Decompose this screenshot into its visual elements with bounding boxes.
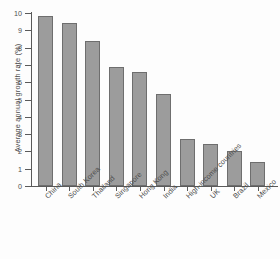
bar [62, 23, 77, 186]
y-tick-label: 7 [0, 61, 22, 70]
bar [85, 41, 100, 186]
y-tick-mark [25, 100, 31, 101]
y-tick-label: 6 [0, 78, 22, 87]
bar-chart: Average annual growth rate (%) 109876543… [0, 0, 280, 259]
bar [38, 16, 53, 186]
y-tick-mark [25, 134, 31, 135]
y-tick-label: 8 [0, 44, 22, 53]
y-axis-line [31, 12, 32, 187]
y-tick-mark [25, 48, 31, 49]
bar [250, 162, 265, 186]
y-tick-mark [25, 151, 31, 152]
y-tick-mark [25, 186, 31, 187]
bar [132, 72, 147, 186]
y-tick-mark [25, 169, 31, 170]
plot-area: 109876543210 ChinaSouth KoreaThailandSin… [0, 0, 280, 259]
bar [109, 67, 124, 186]
bar [180, 139, 195, 186]
y-tick-mark [25, 65, 31, 66]
y-tick-label: 2 [0, 147, 22, 156]
y-tick-mark [25, 13, 31, 14]
y-tick-mark [25, 30, 31, 31]
y-tick-label: 5 [0, 96, 22, 105]
y-tick-mark [25, 117, 31, 118]
y-tick-label: 3 [0, 130, 22, 139]
y-tick-label: 0 [0, 182, 22, 191]
y-tick-label: 9 [0, 26, 22, 35]
y-tick-label: 4 [0, 113, 22, 122]
y-tick-label: 10 [0, 9, 22, 18]
y-tick-mark [25, 82, 31, 83]
y-tick-label: 1 [0, 165, 22, 174]
